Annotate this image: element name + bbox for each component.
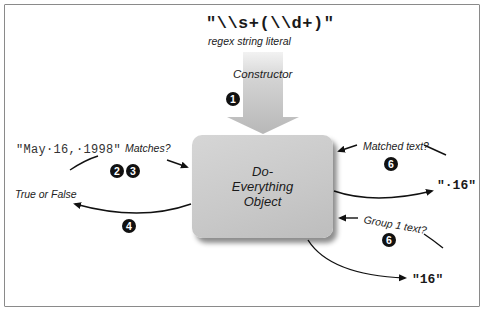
do-everything-object: Do- Everything Object	[192, 135, 333, 238]
step-badge-4: 4	[122, 219, 136, 233]
constructor-label: Constructor	[233, 68, 292, 80]
step-badge-6a: 6	[384, 157, 398, 171]
matches-arrow	[167, 160, 187, 167]
result-arrow	[75, 204, 191, 213]
regex-caption: regex string literal	[208, 35, 291, 47]
group1-value: "16"	[412, 272, 443, 287]
step-badge-2: 2	[110, 164, 124, 178]
object-label: Do- Everything Object	[223, 164, 303, 209]
matched-text-result-arrow	[334, 191, 432, 198]
result-label: True or False	[15, 188, 77, 200]
object-label-line: Object	[223, 194, 303, 209]
object-label-line: Everything	[223, 179, 303, 194]
input-string-stroke	[70, 156, 98, 170]
matched-text-request-arrow	[339, 145, 357, 151]
step-badge-6b: 6	[382, 233, 396, 247]
regex-literal: "\\s+(\\d+)"	[206, 14, 334, 33]
input-string: "May·16,·1998"	[16, 143, 121, 157]
step-badge-1: 1	[226, 92, 240, 106]
matched-text-value: "·16"	[437, 178, 476, 193]
object-label-line: Do-	[223, 164, 303, 179]
step-badge-3: 3	[126, 164, 140, 178]
group1-tail	[424, 234, 443, 248]
matched-text-label: Matched text?	[363, 140, 429, 152]
matches-label: Matches?	[125, 142, 171, 154]
